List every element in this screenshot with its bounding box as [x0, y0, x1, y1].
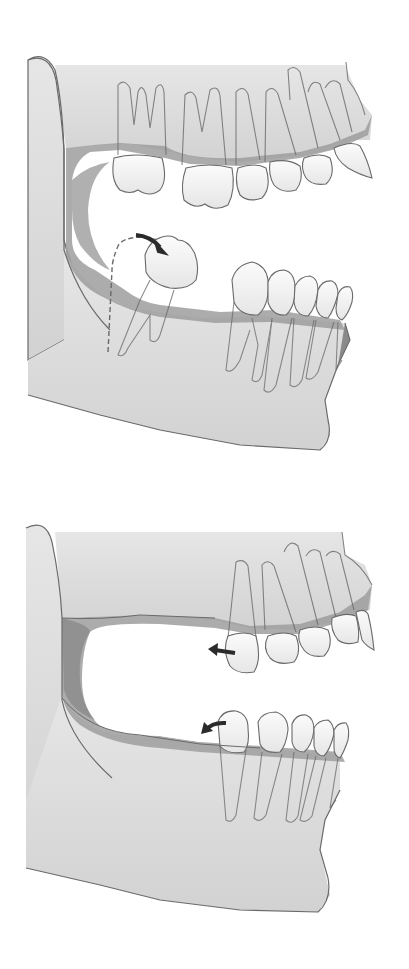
jaw-illustration-after: [0, 500, 409, 969]
jaw-figure-before: [0, 40, 409, 460]
jaw-figure-after: [0, 500, 409, 969]
jaw-illustration-before: [0, 40, 409, 460]
cropped-caption: [0, 0, 409, 5]
